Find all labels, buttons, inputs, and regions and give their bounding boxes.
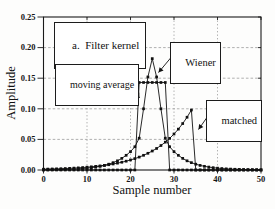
svg-text:0.25: 0.25 [21,12,36,22]
annotation-wiener: Wiener [170,42,221,84]
annotation-moving-average: moving average [55,64,139,106]
figure-filter-kernels: 010203040500.000.050.100.150.200.25 Ampl… [0,0,275,209]
annotation-matched: matched [206,100,262,142]
y-axis-title: Amplitude [4,66,19,119]
svg-text:50: 50 [257,174,266,184]
panel-label-box: a. Filter kernel [54,22,146,69]
svg-text:0.00: 0.00 [21,165,36,175]
svg-text:20: 20 [126,174,135,184]
svg-text:0.05: 0.05 [21,134,36,144]
svg-text:40: 40 [213,174,222,184]
panel-label: a. Filter kernel [72,39,139,51]
svg-text:30: 30 [170,174,179,184]
x-axis-title: Sample number [43,183,261,198]
svg-text:0.15: 0.15 [21,73,36,83]
svg-text:0: 0 [41,174,45,184]
annotation-wiener-label: Wiener [185,57,215,68]
svg-text:10: 10 [83,174,92,184]
svg-text:0.20: 0.20 [21,42,36,52]
annotation-matched-label: matched [222,115,258,126]
annotation-moving-average-label: moving average [70,79,134,90]
svg-text:0.10: 0.10 [21,104,36,114]
